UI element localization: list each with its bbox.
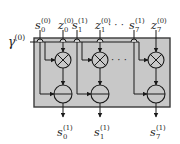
s-in-label-7-sub: 7	[135, 26, 139, 34]
s-out-label-7-sub: 7	[156, 133, 160, 141]
s-out-label-1-sup: (1)	[100, 124, 110, 132]
s-in-label-0-sup: (0)	[41, 17, 51, 25]
z-in-label-7-sup: (0)	[157, 17, 167, 25]
multiply-node	[92, 52, 108, 68]
s-out-label-7: s7(1)	[150, 124, 166, 141]
s-in-label-0-sub: 0	[41, 26, 45, 34]
z-in-label-0-base: z	[57, 19, 64, 32]
s-in-hop	[37, 39, 43, 42]
z-in-hop	[60, 39, 66, 42]
s-out-label-0-sub: 0	[63, 133, 67, 141]
s-in-label-0: s0(0)	[35, 17, 51, 34]
gamma-label: γ(0)	[8, 33, 25, 49]
s-in-label-7: s7(1)	[129, 17, 145, 34]
s-in-hop	[131, 39, 137, 42]
s-in-label-1-sup: (1)	[78, 17, 88, 25]
z-in-label-1-sub: 1	[101, 26, 105, 34]
z-in-hop	[97, 39, 103, 42]
z-in-label-7-sub: 7	[157, 26, 161, 34]
s-out-label-0: s0(1)	[57, 124, 73, 141]
gamma-label-sup: (0)	[15, 33, 26, 42]
s-in-label-1: s1(1)	[72, 17, 88, 34]
s-in-hop	[74, 39, 80, 42]
s-out-label-1-sub: 1	[100, 133, 104, 141]
s-out-label-1: s1(1)	[94, 124, 110, 141]
subtract-node	[147, 85, 165, 103]
s-out-label-7-sup: (1)	[156, 124, 166, 132]
subtract-node	[54, 85, 72, 103]
z-in-label-1-base: z	[94, 19, 101, 32]
ellipsis-top: · · ·	[108, 19, 124, 30]
ellipsis-mid: · · ·	[111, 54, 127, 65]
s-in-label-7-sup: (1)	[135, 17, 145, 25]
multiply-node	[55, 52, 71, 68]
s-in-label-1-sub: 1	[78, 26, 82, 34]
z-in-label-7: z7(0)	[150, 17, 167, 34]
gamma-update-diagram: γ(0)s0(0)z0(0)s0(1)s1(1)z1(0)s1(1)s7(1)z…	[0, 0, 180, 144]
z-in-label-0-sub: 0	[64, 26, 68, 34]
subtract-node	[91, 85, 109, 103]
multiply-node	[148, 52, 164, 68]
s-out-label-0-sup: (1)	[63, 124, 73, 132]
z-in-label-7-base: z	[150, 19, 157, 32]
